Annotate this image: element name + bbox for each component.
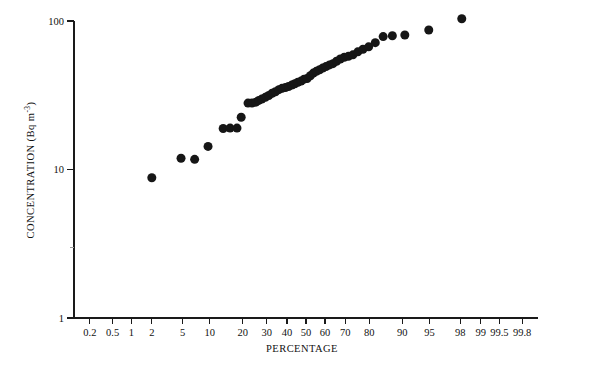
- y-tick-label-3: 100: [48, 16, 64, 27]
- x-tick-label-18: 99.8: [513, 327, 531, 338]
- x-tick-label-6: 20: [238, 327, 249, 338]
- y-tick-label-0: 1: [59, 313, 64, 324]
- x-tick-label-12: 80: [364, 327, 375, 338]
- data-point-44: [379, 32, 388, 41]
- chart-background: [0, 0, 604, 367]
- x-tick-label-4: 5: [180, 327, 185, 338]
- data-point-43: [371, 38, 380, 47]
- x-tick-label-17: 99.5: [490, 327, 508, 338]
- x-tick-label-2: 1: [129, 327, 134, 338]
- probability-plot: 110100 0.20.5125102030405060708090959899…: [0, 0, 604, 367]
- x-tick-label-7: 30: [261, 327, 272, 338]
- x-tick-label-8: 40: [282, 327, 293, 338]
- x-tick-label-0: 0.2: [83, 327, 96, 338]
- x-tick-label-1: 0.5: [106, 327, 119, 338]
- data-point-7: [237, 113, 246, 122]
- data-point-45: [388, 31, 397, 40]
- y-axis-title-tail: ): [25, 102, 37, 106]
- y-axis-title-main: CONCENTRATION (Bq m: [25, 113, 37, 239]
- data-point-48: [457, 14, 466, 23]
- x-tick-label-9: 50: [301, 327, 312, 338]
- x-tick-label-14: 95: [424, 327, 435, 338]
- data-point-2: [190, 155, 199, 164]
- chart-figure: 110100 0.20.5125102030405060708090959899…: [0, 0, 604, 367]
- x-tick-label-10: 60: [320, 327, 331, 338]
- x-tick-label-3: 2: [149, 327, 154, 338]
- data-point-0: [147, 173, 156, 182]
- data-point-46: [400, 30, 409, 39]
- x-tick-label-5: 10: [205, 327, 216, 338]
- data-point-1: [177, 154, 186, 163]
- x-tick-label-13: 90: [397, 327, 408, 338]
- x-tick-label-15: 98: [455, 327, 466, 338]
- y-axis-title-group: CONCENTRATION (Bq m-3): [23, 102, 38, 239]
- data-point-47: [424, 25, 433, 34]
- y-axis-title-exponent: -3: [23, 106, 32, 113]
- y-tick-label-2: 10: [54, 164, 65, 175]
- x-axis-title: PERCENTAGE: [266, 343, 338, 354]
- data-point-6: [232, 124, 241, 133]
- x-tick-label-11: 70: [340, 327, 351, 338]
- data-point-3: [204, 142, 213, 151]
- y-axis-title: CONCENTRATION (Bq m-3): [23, 102, 38, 239]
- x-tick-label-16: 99: [475, 327, 486, 338]
